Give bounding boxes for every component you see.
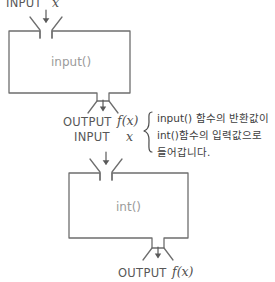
middle-output-variable: f(x) — [117, 115, 138, 128]
middle-input-label: INPUT — [74, 132, 110, 144]
flowchart-drawing — [0, 0, 275, 282]
curly-brace — [144, 112, 152, 152]
note-line-2: int()함수의 입력값으로 — [157, 130, 262, 141]
int-box-label: int() — [116, 201, 141, 213]
middle-input-variable: x — [126, 131, 133, 144]
top-input-variable: x — [52, 0, 59, 10]
bottom-output-variable: f(x) — [172, 266, 193, 279]
middle-arrow — [100, 100, 106, 112]
top-input-arrow — [43, 10, 50, 23]
bottom-output-label: OUTPUT — [118, 268, 167, 280]
note-line-3: 들어갑니다. — [157, 147, 210, 158]
diagram-canvas: INPUT x input() OUTPUT f(x) INPUT x inpu… — [0, 0, 275, 282]
input-box-label: input() — [51, 56, 91, 68]
bottom-arrow — [155, 247, 161, 259]
middle-output-label: OUTPUT — [63, 117, 112, 129]
note-line-1: input() 함수의 반환값이 — [157, 113, 269, 124]
int-input-arrow — [103, 152, 110, 165]
top-input-label: INPUT — [6, 0, 42, 10]
